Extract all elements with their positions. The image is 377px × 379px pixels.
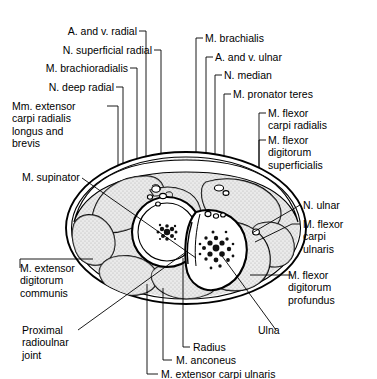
label-n-deep-radial: N. deep radial: [0, 81, 114, 93]
label-n-median: N. median: [224, 69, 374, 81]
label-m-anconeus: M. anconeus: [176, 354, 306, 366]
label-m-pronator-teres: M. pronator teres: [233, 88, 377, 100]
label-m-flexor-digitorum-profundus: M. flexor digitorum profundus: [288, 269, 377, 306]
label-mm-extensor-carpi-radialis: Mm. extensor carpi radialis longus and b…: [12, 100, 122, 150]
label-m-flexor-carpi-ulnaris: M. flexor carpi ulnaris: [303, 218, 377, 255]
label-m-brachioradialis: M. brachioradialis: [0, 62, 128, 74]
label-radius: Radius: [193, 341, 263, 353]
label-a-and-v-ulnar: A. and v. ulnar: [215, 51, 365, 63]
label-m-flexor-carpi-radialis: M. flexor carpi radialis: [268, 107, 377, 132]
label-n-ulnar: N. ulnar: [303, 199, 377, 211]
label-m-supinator: M. supinator: [22, 171, 132, 183]
label-a-and-v-radial: A. and v. radial: [0, 25, 137, 37]
label-n-superficial-radial: N. superficial radial: [0, 44, 152, 56]
label-proximal-radioulnar-joint: Proximal radioulnar joint: [22, 324, 132, 361]
label-m-extensor-digitorum-communis: M. extensor digitorum communis: [20, 262, 130, 299]
label-m-extensor-carpi-ulnaris: M. extensor carpi ulnaris: [161, 368, 361, 379]
anatomy-figure-root: A. and v. radial N. superficial radial M…: [0, 0, 377, 379]
label-m-brachialis: M. brachialis: [205, 32, 355, 44]
label-m-flexor-digitorum-superficialis: M. flexor digitorum superficialis: [268, 134, 377, 171]
label-ulna: Ulna: [258, 324, 308, 336]
